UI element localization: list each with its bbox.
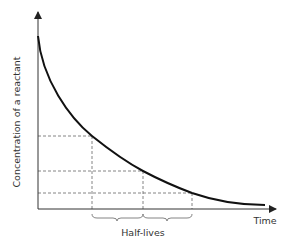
half-life-braces — [92, 214, 192, 221]
brace-1 — [92, 214, 143, 221]
decay-chart: Concentration of a reactant Time Half-li… — [0, 0, 291, 252]
decay-curve — [38, 36, 265, 205]
half-lives-label: Half-lives — [121, 227, 165, 238]
x-axis-label: Time — [252, 215, 276, 226]
y-axis-label: Concentration of a reactant — [11, 56, 22, 187]
half-life-guides — [38, 136, 192, 209]
brace-2 — [143, 214, 192, 221]
